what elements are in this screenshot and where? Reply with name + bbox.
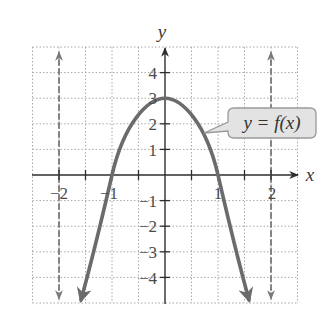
y-tick-label-neg3: −3 xyxy=(139,243,157,262)
x-tick-label-neg1: −1 xyxy=(100,184,118,203)
y-tick-label-neg2: −2 xyxy=(139,217,157,236)
function-callout: y = f(x) xyxy=(204,108,316,138)
y-tick-label-neg1: −1 xyxy=(139,192,157,211)
y-tick-label-4: 4 xyxy=(149,64,158,83)
callout-label: y = f(x) xyxy=(241,112,300,134)
y-axis-label: y xyxy=(156,21,167,42)
y-tick-label-1: 1 xyxy=(149,141,158,160)
x-tick-label-pos1: 1 xyxy=(214,184,223,203)
y-tick-label-neg4: −4 xyxy=(139,269,158,288)
y-tick-labels: 4 3 2 1 −1 −2 −3 −4 xyxy=(139,64,158,288)
x-axis-label: x xyxy=(305,164,315,185)
y-tick-label-3: 3 xyxy=(149,89,158,108)
x-tick-label-pos2: 2 xyxy=(268,184,277,203)
x-tick-label-neg2: −2 xyxy=(50,184,68,203)
parabola-graph: −2 −1 1 2 4 3 2 1 −1 −2 −3 −4 y x y = f(… xyxy=(0,0,333,327)
y-tick-label-2: 2 xyxy=(149,115,158,134)
